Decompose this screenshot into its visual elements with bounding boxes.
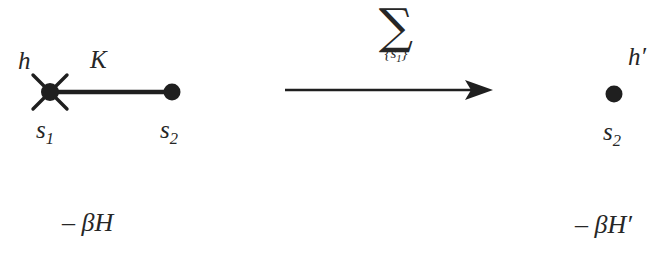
site-label-s1-base: s xyxy=(36,116,46,143)
site-label-s2-base: s xyxy=(160,116,170,143)
summation-operator: ∑ {s1} xyxy=(372,2,420,64)
site-node-s1 xyxy=(41,83,59,101)
site-label-s1: s1 xyxy=(36,117,54,148)
sigma-icon: ∑ xyxy=(372,2,420,50)
site-label-s1-index: 1 xyxy=(46,129,54,148)
field-label-h: h xyxy=(18,48,31,73)
site-label-s2-right-base: s xyxy=(603,118,613,145)
hamiltonian-label-left: – βH xyxy=(62,210,113,236)
site-label-s2-right: s2 xyxy=(603,119,621,150)
field-label-h-prime: h′ xyxy=(628,44,646,69)
coupling-label-k: K xyxy=(90,47,107,72)
site-label-s2-right-index: 2 xyxy=(613,131,621,150)
hamiltonian-label-right: – βH′ xyxy=(575,212,632,238)
decimation-diagram: h K s1 s2 – βH ∑ {s1} h′ s2 – βH′ xyxy=(0,0,670,262)
summation-index-close: } xyxy=(402,45,408,61)
site-node-s2-renormalized xyxy=(606,86,623,103)
site-label-s2-index: 2 xyxy=(170,129,178,148)
site-node-s2 xyxy=(164,84,181,101)
site-label-s2: s2 xyxy=(160,117,178,148)
